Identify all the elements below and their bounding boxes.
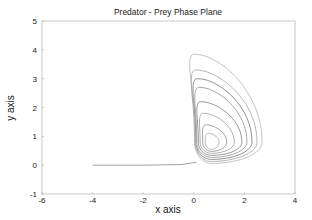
y-tick-label: 2 [33,104,38,113]
y-tick-label: 4 [33,46,38,55]
plot-area [42,21,295,194]
y-tick-label: 1 [33,132,38,141]
x-tick-label: 4 [293,196,298,205]
y-tick-label: 5 [33,17,38,26]
x-tick-label: 0 [192,196,197,205]
chart-title: Predator - Prey Phase Plane [114,7,222,17]
x-tick-label: -6 [38,196,46,205]
x-tick-label: -4 [89,196,97,205]
y-tick-label: 0 [33,161,38,170]
x-tick-label: -2 [140,196,148,205]
y-axis-label: y axis [5,95,16,121]
y-tick-label: -1 [30,190,38,199]
y-tick-label: 3 [33,75,38,84]
phase-plane-chart: -6-4-2024-1012345 Predator - Prey Phase … [0,0,312,220]
x-axis-label: x axis [155,204,181,215]
x-tick-label: 2 [242,196,247,205]
